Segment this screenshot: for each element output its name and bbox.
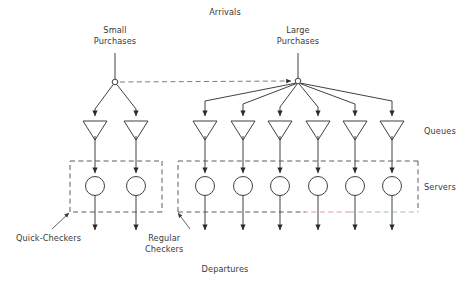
queue-to-server-arrows [95, 136, 392, 173]
regular-checkers-line1: Regular [148, 233, 180, 243]
small-purchases-line2: Purchases [94, 36, 136, 46]
quick-checkers-leader [52, 213, 69, 229]
overflow-connector [120, 81, 291, 82]
fanout-regular-6 [301, 83, 392, 116]
quick-checkers-box [70, 161, 162, 212]
departure-arrows [95, 195, 392, 230]
small-purchases-label: SmallPurchases [94, 25, 136, 46]
queueing-network-diagram [0, 0, 471, 287]
regular-checkers-label: RegularCheckers [145, 233, 183, 254]
split-node-large [295, 78, 301, 84]
queue-triangles [83, 121, 404, 140]
fanout-quick-1 [95, 85, 113, 117]
large-purchases-label: LargePurchases [277, 25, 319, 46]
diagram-canvas: Arrivals SmallPurchases LargePurchases Q… [0, 0, 471, 287]
arrivals-label: Arrivals [209, 7, 241, 18]
connector-dashed-line [120, 81, 291, 82]
server-regular-1 [196, 177, 215, 196]
server-quick-2 [127, 177, 146, 196]
large-purchases-line1: Large [286, 25, 310, 35]
regular-checkers-leader [178, 213, 190, 229]
server-circles [86, 177, 402, 196]
large-purchases-line2: Purchases [277, 36, 319, 46]
quick-checkers-label: Quick-Checkers [16, 233, 81, 244]
departures-label: Departures [202, 264, 249, 275]
regular-fanout-arrows [205, 83, 392, 116]
source-stems [115, 53, 298, 79]
fanout-quick-2 [117, 85, 136, 117]
server-regular-2 [234, 177, 253, 196]
regular-checkers-line2: Checkers [145, 244, 183, 254]
server-quick-1 [86, 177, 105, 196]
split-node-small [112, 79, 118, 85]
quick-fanout-arrows [95, 85, 136, 117]
servers-label: Servers [424, 182, 456, 193]
server-regular-6 [383, 177, 402, 196]
callout-leader-lines [52, 213, 190, 229]
server-regular-5 [346, 177, 365, 196]
small-purchases-line1: Small [103, 25, 126, 35]
server-regular-4 [309, 177, 328, 196]
fanout-regular-1 [205, 83, 296, 116]
queues-label: Queues [424, 126, 456, 137]
server-regular-3 [271, 177, 290, 196]
